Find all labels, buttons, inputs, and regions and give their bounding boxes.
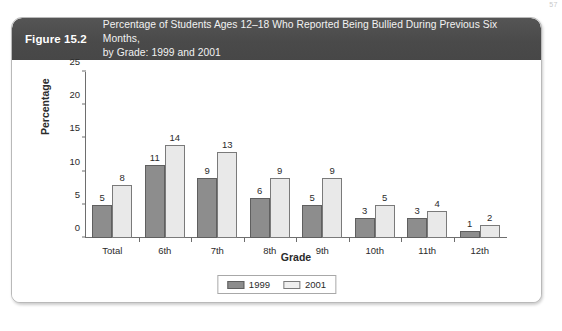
bar-value-label: 13 — [222, 139, 233, 150]
bar-value-label: 5 — [382, 192, 387, 203]
figure-title-line-2: by Grade: 1999 and 2001 — [103, 46, 531, 60]
bar-value-label: 5 — [100, 192, 105, 203]
x-tick-mark — [244, 238, 245, 242]
x-tick-mark — [296, 238, 297, 242]
x-tick-mark — [349, 238, 350, 242]
figure-number-label: Figure 15.2 — [25, 33, 87, 45]
bar-2001-10th[interactable]: 5 — [375, 205, 395, 238]
bar-group: 58 — [86, 72, 139, 238]
bar-2001-11th[interactable]: 4 — [427, 211, 447, 238]
bar-value-label: 4 — [435, 198, 440, 209]
y-tick-label: 15 — [39, 122, 85, 133]
y-tick-label: 0 — [39, 222, 85, 233]
bar-value-label: 3 — [415, 205, 420, 216]
legend-label-1999: 1999 — [249, 279, 270, 290]
y-tick-label: 20 — [39, 89, 85, 100]
bar-1999-8th[interactable]: 6 — [250, 198, 270, 238]
bar-value-label: 3 — [362, 205, 367, 216]
figure-title: Percentage of Students Ages 12–18 Who Re… — [103, 18, 531, 60]
bar-group: 34 — [401, 72, 454, 238]
bar-value-label: 9 — [277, 165, 282, 176]
bar-1999-Total[interactable]: 5 — [92, 205, 112, 238]
y-tick-label: 5 — [39, 188, 85, 199]
bar-value-label: 5 — [310, 192, 315, 203]
bar-2001-Total[interactable]: 8 — [112, 185, 132, 238]
x-tick-mark — [191, 238, 192, 242]
y-tick-label: 25 — [39, 56, 85, 67]
bar-2001-12th[interactable]: 2 — [480, 225, 500, 238]
bar-1999-6th[interactable]: 11 — [145, 165, 165, 238]
bars-container: 58Total11146th9137th698th599th3510th3411… — [86, 72, 506, 238]
bar-group: 69 — [244, 72, 297, 238]
bar-group: 35 — [349, 72, 402, 238]
legend-label-2001: 2001 — [305, 279, 326, 290]
page-number: 57 — [549, 1, 558, 8]
bar-2001-7th[interactable]: 13 — [217, 152, 237, 238]
bar-1999-11th[interactable]: 3 — [407, 218, 427, 238]
bar-1999-12th[interactable]: 1 — [460, 231, 480, 238]
bar-value-label: 11 — [150, 152, 160, 163]
x-axis-title: Grade — [86, 251, 506, 263]
bar-value-label: 14 — [169, 132, 180, 143]
y-tick-label: 10 — [39, 155, 85, 166]
bar-value-label: 6 — [257, 185, 262, 196]
x-tick-mark — [139, 238, 140, 242]
bar-group: 12 — [454, 72, 507, 238]
bar-2001-8th[interactable]: 9 — [270, 178, 290, 238]
figure-body: Percentage 0510152025 58Total11146th9137… — [12, 60, 541, 303]
chart-plot: Percentage 0510152025 58Total11146th9137… — [39, 66, 517, 262]
figure-header: Figure 15.2 Percentage of Students Ages … — [12, 18, 541, 60]
bar-1999-10th[interactable]: 3 — [355, 218, 375, 238]
bar-value-label: 1 — [467, 218, 472, 229]
figure-card: Figure 15.2 Percentage of Students Ages … — [11, 17, 542, 303]
bar-1999-9th[interactable]: 5 — [302, 205, 322, 238]
x-tick-mark — [454, 238, 455, 242]
bar-value-label: 8 — [120, 172, 125, 183]
bar-value-label: 9 — [205, 165, 210, 176]
bar-2001-6th[interactable]: 14 — [165, 145, 185, 238]
figure-title-line-1: Percentage of Students Ages 12–18 Who Re… — [103, 18, 531, 46]
chart-legend: 1999 2001 — [217, 275, 336, 294]
legend-swatch-1999 — [227, 281, 244, 289]
legend-item-1999: 1999 — [227, 279, 270, 290]
legend-swatch-2001 — [283, 281, 300, 289]
bar-group: 1114 — [139, 72, 192, 238]
x-tick-mark — [401, 238, 402, 242]
bar-group: 913 — [191, 72, 244, 238]
bar-1999-7th[interactable]: 9 — [197, 178, 217, 238]
bar-group: 59 — [296, 72, 349, 238]
bar-2001-9th[interactable]: 9 — [322, 178, 342, 238]
bar-value-label: 2 — [487, 212, 492, 223]
legend-item-2001: 2001 — [283, 279, 326, 290]
bar-value-label: 9 — [330, 165, 335, 176]
